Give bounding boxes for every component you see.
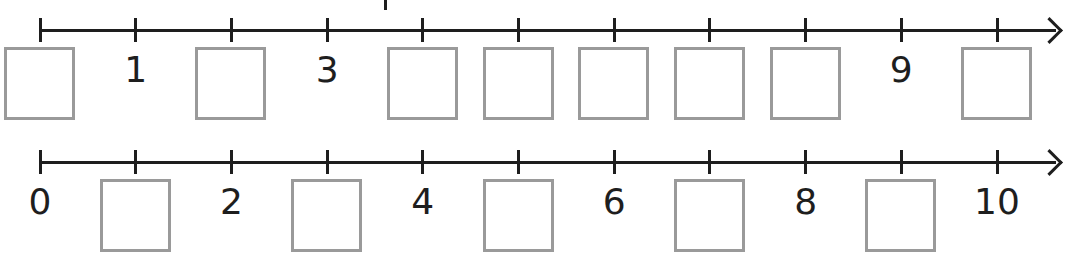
arrow-head-icon [1036,17,1063,44]
tick-mark [134,18,137,42]
tick-mark [230,150,233,174]
axis-line [40,29,1056,32]
number-label: 1 [106,50,166,90]
arrow-head-icon [1036,149,1063,176]
number-label: 3 [297,50,357,90]
answer-box[interactable] [387,47,458,120]
answer-box[interactable] [865,179,936,252]
number-label: 4 [393,182,453,222]
tick-mark [613,18,616,42]
tick-mark [39,18,42,42]
tick-mark [421,150,424,174]
tick-mark [613,150,616,174]
tick-mark [326,150,329,174]
answer-box[interactable] [4,47,75,120]
answer-box[interactable] [961,47,1032,120]
tick-mark [708,18,711,42]
tick-mark [39,150,42,174]
tick-mark [996,18,999,42]
number-label: 6 [584,182,644,222]
answer-box[interactable] [578,47,649,120]
tick-mark [708,150,711,174]
answer-box[interactable] [674,47,745,120]
tick-mark [804,18,807,42]
answer-box[interactable] [291,179,362,252]
tick-mark [996,150,999,174]
answer-box[interactable] [195,47,266,120]
number-label: 9 [871,50,931,90]
tick-mark [517,18,520,42]
answer-box[interactable] [483,47,554,120]
number-label: 0 [10,182,70,222]
tick-mark [326,18,329,42]
tick-mark [900,150,903,174]
answer-box[interactable] [770,47,841,120]
tick-mark [134,150,137,174]
tick-mark [900,18,903,42]
answer-box[interactable] [674,179,745,252]
number-label: 2 [201,182,261,222]
answer-box[interactable] [483,179,554,252]
axis-line [40,161,1056,164]
answer-box[interactable] [100,179,171,252]
tick-mark [804,150,807,174]
tick-mark [517,150,520,174]
number-label: 8 [776,182,836,222]
tick-mark [421,18,424,42]
tick-mark [230,18,233,42]
number-label: 10 [967,182,1027,222]
stray-mark [384,0,387,10]
